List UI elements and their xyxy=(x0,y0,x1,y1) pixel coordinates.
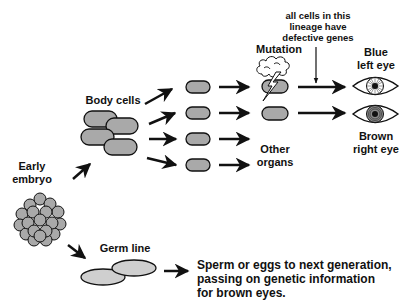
cloud-icon xyxy=(257,57,289,77)
blue-eye-icon xyxy=(353,78,398,95)
early-embryo-label: Early embryo xyxy=(2,160,62,186)
lineage-note: all cells in this lineage have defective… xyxy=(268,10,368,43)
blue-left-eye-label: Blue left eye xyxy=(348,46,404,72)
arrows-col2-to-col3 xyxy=(219,87,249,165)
normal-cell xyxy=(262,107,288,120)
mutation-label: Mutation xyxy=(244,43,314,56)
germ-line-label: Germ line xyxy=(90,242,160,255)
early-embryo-cluster xyxy=(14,193,66,246)
brown-right-eye-label: Brown right eye xyxy=(348,130,404,156)
arrows-body-to-col2 xyxy=(145,89,176,165)
germ-line-cells xyxy=(81,260,156,285)
other-organs-label: Other organs xyxy=(247,143,303,169)
body-cells-cluster xyxy=(81,111,138,155)
body-cells-label: Body cells xyxy=(78,94,148,107)
col2-cells xyxy=(186,81,210,171)
brown-eye-icon xyxy=(353,106,398,123)
arrow-embryo-to-body xyxy=(73,164,90,179)
germ-line-outcome-text: Sperm or eggs to next generation, passin… xyxy=(197,258,412,300)
arrow-embryo-to-germ xyxy=(68,245,85,258)
